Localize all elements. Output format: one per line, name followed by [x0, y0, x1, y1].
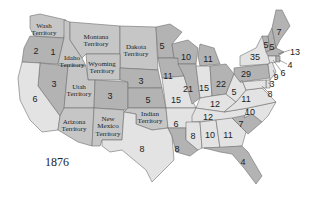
label-texas: 8 — [139, 145, 144, 154]
label-kansas: 5 — [145, 96, 150, 105]
label-indiana: 15 — [199, 84, 209, 93]
label-indian-territory: IndianTerritory — [138, 111, 163, 126]
label-rhode-island: 4 — [287, 61, 292, 70]
label-washington-territory: WashTerritory — [32, 23, 57, 38]
label-new-hampshire: 5 — [269, 43, 274, 52]
label-ohio: 22 — [216, 80, 226, 89]
label-pennsylvania: 29 — [241, 70, 251, 79]
label-nebraska: 3 — [138, 77, 143, 86]
label-dakota-territory: DakotaTerritory — [124, 44, 149, 59]
label-west-virginia: 5 — [231, 88, 236, 97]
label-vermont: 5 — [263, 41, 268, 50]
year-label: 1876 — [45, 155, 69, 170]
label-new-york: 35 — [250, 53, 260, 62]
label-idaho-1: 1 — [50, 48, 55, 57]
territory-line: Territory — [96, 131, 121, 138]
label-georgia: 11 — [223, 131, 232, 140]
label-california: 6 — [32, 95, 37, 104]
label-idaho-territory: IdahoTerritory — [60, 55, 85, 70]
oregon — [22, 36, 64, 64]
label-montana-territory: MontanaTerritory — [84, 34, 109, 49]
label-wyoming-territory: WyomingTerritory — [88, 61, 116, 76]
territory-line: Territory — [88, 68, 116, 75]
label-louisiana: 8 — [174, 145, 179, 154]
florida — [204, 146, 262, 184]
label-virginia: 11 — [241, 95, 250, 104]
territory-line: Territory — [138, 118, 163, 125]
label-alabama: 10 — [205, 131, 215, 140]
label-delaware: 3 — [269, 80, 274, 89]
territory-line: Territory — [84, 41, 109, 48]
label-south-carolina: 7 — [238, 120, 243, 129]
label-new-mexico-territory: NewMexicoTerritory — [96, 116, 121, 138]
label-massachusetts: 13 — [290, 48, 300, 57]
territory-line: Territory — [124, 51, 149, 58]
label-mississippi: 8 — [190, 132, 195, 141]
pennsylvania — [234, 64, 270, 82]
label-arizona-territory: ArizonaTerritory — [62, 119, 87, 134]
label-maryland: 8 — [267, 90, 272, 99]
label-north-carolina: 10 — [245, 108, 255, 117]
label-arkansas: 6 — [173, 120, 178, 129]
rhode-island — [276, 56, 280, 62]
label-nevada: 3 — [51, 80, 56, 89]
territory-line: Territory — [67, 91, 92, 98]
label-connecticut: 6 — [280, 69, 285, 78]
label-michigan: 11 — [203, 55, 212, 64]
label-oregon: 2 — [33, 47, 38, 56]
label-kentucky: 12 — [210, 100, 220, 109]
territory-line: Territory — [32, 30, 57, 37]
label-florida: 4 — [240, 158, 245, 167]
label-wisconsin: 10 — [181, 53, 191, 62]
label-illinois: 21 — [183, 85, 193, 94]
territory-line: Territory — [60, 62, 85, 69]
label-minnesota: 5 — [159, 42, 164, 51]
label-missouri: 15 — [171, 96, 181, 105]
label-utah-territory: UtahTerritory — [67, 84, 92, 99]
label-iowa: 11 — [163, 72, 172, 81]
territory-line: Territory — [62, 126, 87, 133]
label-colorado: 3 — [107, 92, 112, 101]
label-tennessee: 12 — [203, 113, 213, 122]
label-maine: 7 — [276, 28, 281, 37]
